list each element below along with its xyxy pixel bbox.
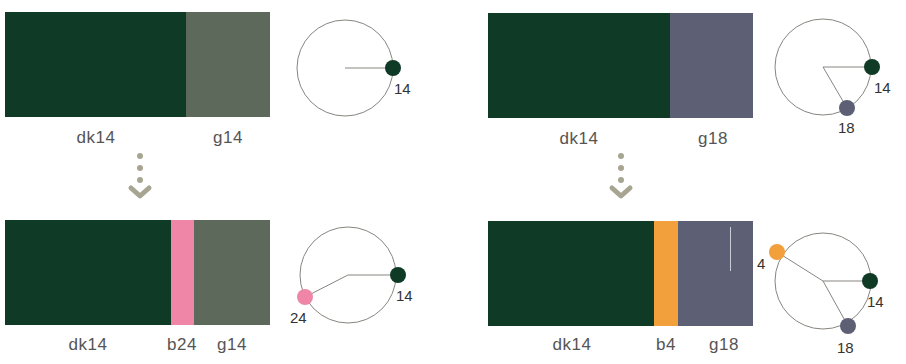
wheel-label-4: 4 [757, 255, 765, 272]
color-wheel-top-right: 14 18 [770, 10, 906, 145]
wheel-label-24: 24 [290, 309, 307, 326]
swatch-segment-b24 [171, 220, 194, 325]
label-dk14: dk14 [77, 128, 116, 148]
wheel-point-14 [385, 60, 401, 76]
wheel-label-18: 18 [838, 119, 855, 136]
swatch-segment-dk14 [5, 12, 186, 117]
swatch-top-left [5, 12, 270, 117]
swatch-segment-g14 [194, 220, 270, 325]
swatch-segment-dk14 [5, 220, 171, 325]
swatch-segment-dk14 [488, 221, 654, 326]
color-wheel-top-left: 14 [290, 10, 430, 130]
down-arrow-icon [606, 150, 636, 202]
color-wheel-bottom-right: 4 14 18 [755, 220, 906, 360]
down-arrow-icon [125, 150, 155, 202]
label-dk14: dk14 [560, 129, 599, 149]
wheel-point-18 [839, 100, 855, 116]
wheel-label-14: 14 [874, 79, 891, 96]
swatch-segment-g14 [186, 12, 270, 117]
label-dk14: dk14 [69, 335, 108, 355]
highlight-line [730, 227, 731, 271]
wheel-point-4 [769, 244, 785, 260]
label-b4: b4 [656, 335, 676, 355]
label-g18: g18 [698, 129, 728, 149]
color-wheel-bottom-left: 14 24 [285, 220, 425, 360]
swatch-segment-dk14 [488, 13, 670, 118]
wheel-point-14 [862, 273, 878, 289]
label-g18: g18 [709, 335, 739, 355]
wheel-label-14: 14 [394, 80, 411, 97]
label-g14: g14 [217, 335, 247, 355]
label-g14: g14 [213, 128, 243, 148]
wheel-label-14: 14 [396, 287, 413, 304]
wheel-point-14 [390, 267, 406, 283]
wheel-point-14 [864, 59, 880, 75]
wheel-point-24 [297, 289, 313, 305]
swatch-top-right [488, 13, 753, 118]
label-dk14: dk14 [553, 335, 592, 355]
label-b24: b24 [167, 335, 197, 355]
wheel-label-14: 14 [867, 293, 884, 310]
swatch-segment-g18 [678, 221, 753, 326]
wheel-point-18 [840, 318, 856, 334]
wheel-label-18: 18 [837, 339, 854, 356]
swatch-bottom-right [488, 221, 753, 326]
swatch-segment-b4 [654, 221, 678, 326]
swatch-segment-g18 [670, 13, 753, 118]
swatch-bottom-left [5, 220, 270, 325]
